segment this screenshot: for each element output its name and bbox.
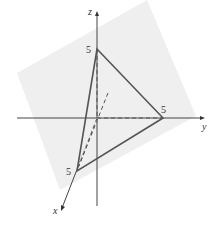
y-axis-arrow-icon — [200, 116, 205, 120]
coordinate-diagram: 5 5 5 z y x — [0, 0, 219, 227]
y-intercept-label: 5 — [161, 104, 166, 115]
y-axis-label: y — [201, 121, 207, 132]
z-axis-label: z — [87, 6, 92, 17]
shaded-plane — [17, 0, 196, 190]
z-intercept-label: 5 — [86, 44, 91, 55]
x-intercept-label: 5 — [66, 166, 71, 177]
z-axis-arrow-icon — [95, 11, 99, 16]
x-axis-label: x — [52, 205, 58, 216]
